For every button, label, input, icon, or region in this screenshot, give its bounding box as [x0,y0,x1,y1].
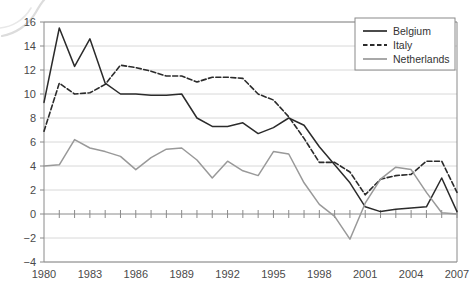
y-tick-label: −4 [23,256,36,268]
x-tick-label: 1995 [261,268,285,280]
x-tick-label: 2007 [445,268,469,280]
x-tick-label: 1983 [78,268,102,280]
legend-label-belgium: Belgium [393,25,431,37]
y-tick-label: 6 [30,136,36,148]
y-tick-label: 0 [30,208,36,220]
x-tick-label: 1980 [32,268,56,280]
y-tick-label: 2 [30,184,36,196]
x-tick-label: 2001 [353,268,377,280]
y-tick-label: 16 [24,16,36,28]
y-tick-label: 10 [24,88,36,100]
x-tick-label: 1989 [169,268,193,280]
x-tick-label: 1986 [124,268,148,280]
y-tick-label: 14 [24,40,36,52]
y-tick-label: −2 [23,232,36,244]
legend-label-italy: Italy [393,39,413,51]
scan-artifact [0,0,44,36]
x-tick-label: 1998 [307,268,331,280]
y-tick-label: 4 [30,160,36,172]
chart-canvas: −4−20246810121416 1980198319861989199219… [0,0,471,289]
y-tick-label: 12 [24,64,36,76]
x-tick-label: 2004 [399,268,423,280]
legend-label-netherlands: Netherlands [393,53,450,65]
series-line-netherlands [44,140,457,240]
y-tick-label: 8 [30,112,36,124]
series-line-italy [44,65,457,195]
y-axis-labels: −4−20246810121416 [23,16,44,268]
chart-legend: BelgiumItalyNetherlands [355,18,455,70]
line-chart: −4−20246810121416 1980198319861989199219… [0,0,471,289]
x-axis-labels: 1980198319861989199219951998200120042007 [32,268,469,280]
x-tick-label: 1992 [215,268,239,280]
